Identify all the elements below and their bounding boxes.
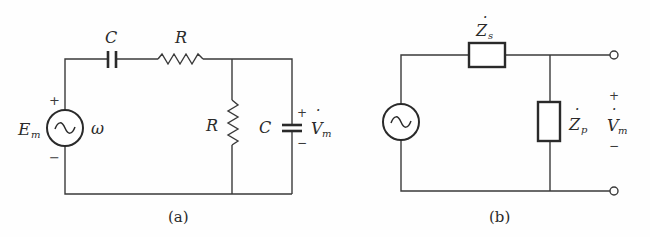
circuit-figure: C R R C E m ω + − + − · V m (a)	[0, 0, 650, 237]
ac-source-b-icon	[383, 104, 419, 140]
source-label-main: E	[17, 119, 31, 139]
shunt-capacitor-icon	[282, 125, 302, 131]
series-capacitor-label: C	[105, 28, 117, 47]
output-b-label-sub: m	[618, 125, 627, 136]
source-label: E m	[17, 119, 40, 140]
output-a-label: · V m	[311, 102, 331, 139]
source-minus-sign: −	[49, 150, 60, 165]
output-a-plus-sign: +	[297, 106, 307, 120]
output-a-dot: ·	[316, 102, 320, 118]
wire-b-bottom	[401, 140, 611, 191]
wire-a-bottom	[65, 146, 292, 194]
shunt-impedance-label: · Z p	[568, 101, 588, 135]
series-impedance-label-main: Z	[475, 21, 488, 40]
caption-a: (a)	[168, 208, 189, 226]
circuit-svg: C R R C E m ω + − + − · V m (a)	[0, 0, 650, 237]
circuit-a: C R R C E m ω + − + − · V m (a)	[17, 28, 331, 226]
ac-source-icon	[47, 110, 83, 146]
shunt-impedance-label-sub: p	[581, 124, 588, 135]
output-a-label-sub: m	[322, 128, 331, 139]
shunt-resistor-label: R	[205, 116, 218, 135]
circuit-b: · Z s · Z p + − · V m (b)	[383, 9, 627, 226]
output-b-minus-sign: −	[609, 139, 619, 153]
shunt-impedance-label-main: Z	[568, 115, 581, 134]
series-resistor-label: R	[174, 28, 187, 47]
shunt-impedance-icon	[538, 102, 560, 141]
series-capacitor-icon	[108, 51, 116, 68]
output-a-minus-sign: −	[297, 136, 307, 150]
frequency-label: ω	[91, 119, 104, 138]
output-b-label: · V m	[607, 101, 627, 136]
shunt-capacitor-label: C	[259, 118, 271, 137]
output-terminal-top	[610, 51, 618, 59]
series-impedance-label-sub: s	[488, 30, 493, 41]
series-resistor-icon	[158, 54, 203, 64]
output-b-dot: ·	[612, 101, 616, 117]
caption-b: (b)	[489, 208, 510, 226]
series-impedance-icon	[469, 43, 505, 67]
source-plus-sign: +	[49, 93, 60, 108]
shunt-resistor-icon	[228, 100, 238, 145]
wire-a-left-top	[65, 59, 108, 110]
source-label-sub: m	[31, 129, 40, 140]
output-terminal-bottom	[610, 187, 618, 195]
wire-b-left-top	[401, 55, 469, 104]
series-impedance-label: · Z s	[475, 9, 493, 41]
